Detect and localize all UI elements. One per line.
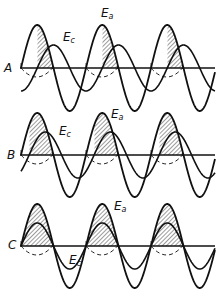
ea-subscript: a [109,12,114,21]
ec-subscript: c [67,130,71,139]
bias-arc [21,246,53,255]
ec-subscript: c [77,259,81,268]
ea-subscript: a [119,113,124,122]
ea-symbol: E [101,6,109,20]
ea-symbol: E [111,107,119,121]
bias-arc [151,246,183,255]
anode-voltage-label-a: Ea [101,7,114,21]
grid-voltage-label-c: Ec [69,254,81,268]
panel-letter-b: B [7,149,15,161]
grid-voltage-label-a: Ec [63,31,75,45]
ec-symbol: E [63,30,71,44]
waveform-diagram [0,0,224,298]
ea-subscript: a [122,205,127,214]
panel-b [20,113,215,197]
ec-symbol: E [59,124,67,138]
ea-symbol: E [114,199,122,213]
ec-subscript: c [71,36,75,45]
panel-letter-c: C [8,239,16,251]
panel-c [20,204,215,288]
panel-a [20,25,215,111]
ec-symbol: E [69,253,77,267]
grid-voltage-label-b: Ec [59,125,71,139]
anode-voltage-label-b: Ea [111,108,124,122]
panel-letter-a: A [4,62,12,74]
bias-arc [86,246,118,255]
anode-voltage-label-c: Ea [114,200,127,214]
